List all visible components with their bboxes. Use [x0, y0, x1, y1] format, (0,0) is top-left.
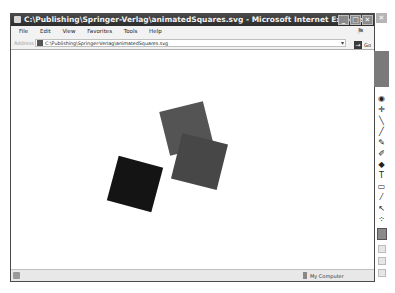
title-bar[interactable]: C:\Publishing\Springer-Verlag\animatedSq…	[11, 14, 374, 26]
menu-edit[interactable]: Edit	[40, 26, 51, 37]
zoom-tool-icon[interactable]: ↖	[376, 203, 387, 214]
address-label: Address	[14, 37, 34, 49]
maximize-button[interactable]: □	[350, 15, 361, 25]
close-button[interactable]: ✕	[362, 15, 373, 25]
fill-tool-icon[interactable]: ◆	[376, 159, 387, 170]
text-tool-icon[interactable]: T	[376, 170, 387, 181]
zone-label: My Computer	[310, 273, 344, 279]
line-tool-icon[interactable]: ╲	[376, 115, 387, 126]
browser-window: C:\Publishing\Springer-Verlag\animatedSq…	[10, 13, 375, 282]
address-value: C:\Publishing\Springer-Verlag\animatedSq…	[45, 41, 168, 46]
address-bar: Address C:\Publishing\Springer-Verlag\an…	[11, 37, 374, 50]
side-toolbar: ✕ ◉✛╲╱✎✐◆T▭⁄↖⁘	[374, 13, 393, 282]
panel-button-icon[interactable]	[378, 257, 386, 265]
menu-tools[interactable]: Tools	[124, 26, 138, 37]
svg-content-area	[11, 50, 374, 269]
pen-tool-icon[interactable]: ╱	[376, 126, 387, 137]
rect-tool-icon[interactable]: ▭	[376, 181, 387, 192]
side-header-strip	[374, 51, 389, 87]
color-swatch[interactable]	[377, 228, 387, 240]
node-tool-icon[interactable]: ✛	[376, 104, 387, 115]
eyedropper-tool-icon[interactable]: ⁄	[376, 192, 387, 203]
menu-view[interactable]: View	[62, 26, 75, 37]
panel-button-icon[interactable]	[378, 269, 386, 277]
computer-icon	[303, 272, 307, 279]
tool-column: ◉✛╲╱✎✐◆T▭⁄↖⁘	[375, 93, 388, 279]
security-zone: My Computer	[303, 271, 344, 282]
page-status-icon	[13, 272, 20, 279]
menu-file[interactable]: File	[19, 26, 28, 37]
spray-tool-icon[interactable]: ⁘	[376, 214, 387, 225]
side-close-button[interactable]: ✕	[376, 13, 387, 23]
status-bar: My Computer	[11, 269, 374, 281]
page-icon	[37, 40, 43, 46]
menu-bar: File Edit View Favorites Tools Help ⚑	[11, 26, 374, 37]
window-title: C:\Publishing\Springer-Verlag\animatedSq…	[24, 15, 367, 24]
square-dark	[107, 156, 163, 212]
window-controls: _ □ ✕	[338, 15, 373, 25]
menu-favorites[interactable]: Favorites	[87, 26, 112, 37]
menu-help[interactable]: Help	[149, 26, 162, 37]
windows-logo-icon: ⚑	[357, 27, 366, 36]
address-dropdown-icon[interactable]: ▾	[341, 39, 344, 47]
go-arrow-icon: →	[354, 41, 362, 49]
address-input[interactable]: C:\Publishing\Springer-Verlag\animatedSq…	[35, 39, 346, 47]
minimize-button[interactable]: _	[338, 15, 349, 25]
pencil-tool-icon[interactable]: ✎	[376, 137, 387, 148]
panel-button-icon[interactable]	[378, 245, 386, 253]
select-tool-icon[interactable]: ◉	[376, 93, 387, 104]
animated-squares-svg	[11, 50, 374, 269]
ie-icon	[14, 16, 21, 23]
brush-tool-icon[interactable]: ✐	[376, 148, 387, 159]
